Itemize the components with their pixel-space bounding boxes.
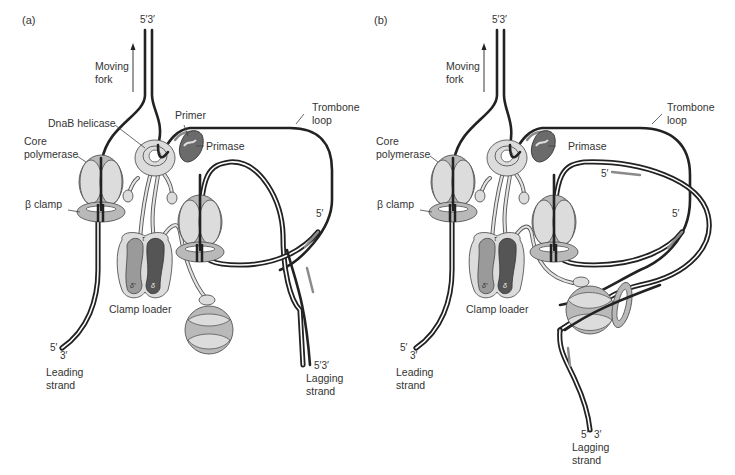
tau-label-b: τ xyxy=(494,235,497,242)
trombone-line2-b: loop xyxy=(667,114,714,127)
lagging-5prime-b: 5′ xyxy=(581,429,588,442)
moving-fork-label-a: Moving fork xyxy=(95,60,129,85)
delta-label-a: δ xyxy=(151,282,155,289)
leading-strand-dna xyxy=(62,200,98,348)
panel-a-tag: (a) xyxy=(22,14,35,27)
moving-fork-arrow-icon xyxy=(131,43,136,92)
loose-clamp-complex xyxy=(185,295,233,354)
delta-label-b: δ xyxy=(503,282,507,289)
moving-fork-line2: fork xyxy=(95,73,129,86)
leading-5prime-a: 5′ xyxy=(50,342,57,355)
clamp-loader-label-b: Clamp loader xyxy=(466,303,528,316)
leading-strand-dna-b xyxy=(416,200,452,348)
beta-clamp-label-a: β clamp xyxy=(25,198,62,211)
core-line1-b: Core xyxy=(376,135,430,148)
core-line1: Core xyxy=(24,135,78,148)
lagging-strand-label-a: Lagging strand xyxy=(306,372,343,397)
moving-fork-line1-b: Moving xyxy=(446,60,480,73)
core-polymerase-right-b xyxy=(519,192,576,249)
lagging-3prime-b: 3′ xyxy=(594,429,601,442)
primer-label-a: Primer xyxy=(175,109,206,122)
tau-label-a: τ xyxy=(142,235,145,242)
clamp-loader xyxy=(117,233,172,298)
core-polymerase-right xyxy=(167,192,222,249)
leading-line1-b: Leading xyxy=(396,366,433,379)
core-line2-b: polymerase xyxy=(376,148,430,161)
core-polymerase-label-b: Core polymerase xyxy=(376,135,430,160)
lagging-line2: strand xyxy=(306,385,343,398)
fork-ends-label-a: 5′3′ xyxy=(140,14,155,27)
panel-b xyxy=(416,30,709,430)
okazaki-5prime-upper-b: 5′ xyxy=(601,168,608,181)
core-polymerase-label-a: Core polymerase xyxy=(24,135,78,160)
trombone-loop-dna-b xyxy=(510,128,709,430)
core-polymerase-left xyxy=(79,155,133,209)
primase-label-b: Primase xyxy=(568,140,607,153)
moving-fork-label-b: Moving fork xyxy=(446,60,480,85)
core-line2: polymerase xyxy=(24,148,78,161)
lagging-strand-label-b: Lagging strand xyxy=(572,441,609,466)
fork-ends-label-b: 5′3′ xyxy=(492,14,507,27)
primase-label-a: Primase xyxy=(206,140,245,153)
leading-5prime-b: 5′ xyxy=(400,342,407,355)
leading-line2: strand xyxy=(46,379,83,392)
trombone-loop-label-a: Trombone loop xyxy=(312,101,359,126)
leading-strand-label-b: Leading strand xyxy=(396,366,433,391)
moving-fork-arrow-icon-b xyxy=(482,43,487,92)
moving-fork-line2-b: fork xyxy=(446,73,480,86)
leading-3prime-b: 3′ xyxy=(410,350,417,363)
trombone-line2: loop xyxy=(312,114,359,127)
lagging-line1: Lagging xyxy=(306,372,343,385)
dnab-helicase-b xyxy=(487,140,527,176)
trombone-line1-b: Trombone xyxy=(667,101,714,114)
okazaki-5prime-lower-b: 5′ xyxy=(672,208,679,221)
moving-fork-line1: Moving xyxy=(95,60,129,73)
lagging-line2-b: strand xyxy=(572,454,609,467)
leading-line2-b: strand xyxy=(396,379,433,392)
lagging-line1-b: Lagging xyxy=(572,441,609,454)
leading-3prime-a: 3′ xyxy=(60,350,67,363)
dnab-helicase-label-a: DnaB helicase xyxy=(48,117,116,130)
delta-prime-label-a: δ′ xyxy=(130,282,135,289)
trombone-loop-label-b: Trombone loop xyxy=(667,101,714,126)
panel-b-tag: (b) xyxy=(374,14,387,27)
leading-line1: Leading xyxy=(46,366,83,379)
trombone-line1: Trombone xyxy=(312,101,359,114)
core-polymerase-left-b xyxy=(431,155,485,209)
leading-strand-label-a: Leading strand xyxy=(46,366,83,391)
okazaki-5prime-label-a: 5′ xyxy=(316,208,323,221)
lagging-ends-label-a: 5′3′ xyxy=(314,360,329,373)
clamp-loader-b xyxy=(469,233,524,298)
beta-clamp-label-b: β clamp xyxy=(377,198,414,211)
delta-prime-label-b: δ′ xyxy=(482,282,487,289)
clamp-loader-label-a: Clamp loader xyxy=(109,303,171,316)
